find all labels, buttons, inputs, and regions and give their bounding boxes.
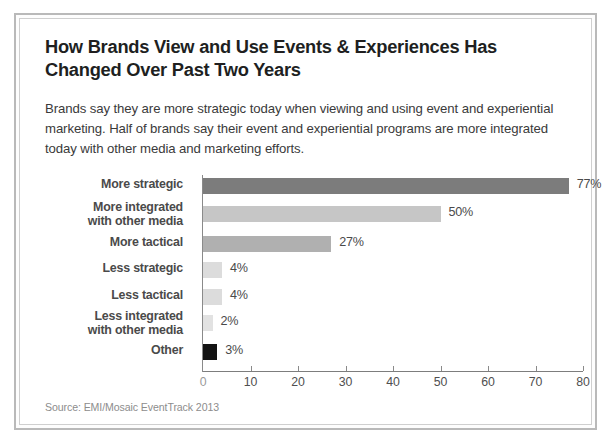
bar-value-label: 2% <box>221 314 239 328</box>
bar <box>203 206 441 222</box>
bar-row: Less integratedwith other media2% <box>20 312 591 334</box>
bar-category-label: More integratedwith other media <box>20 201 183 229</box>
x-axis-tick-label: 70 <box>529 375 542 389</box>
bar-category-label: Other <box>20 344 183 358</box>
x-axis-tick-label: 80 <box>576 375 589 389</box>
bar <box>203 315 213 331</box>
x-axis-tick <box>536 366 537 371</box>
bar-track: 4% <box>203 286 583 308</box>
x-axis-tick-label: 40 <box>386 375 399 389</box>
bar-value-label: 77% <box>577 177 602 191</box>
bar-category-label: Less tactical <box>20 289 183 303</box>
bar-track: 77% <box>203 175 583 197</box>
bar-category-label: More tactical <box>20 236 183 250</box>
x-axis-tick <box>441 366 442 371</box>
bar-row: More tactical27% <box>20 233 591 255</box>
bar-track: 4% <box>203 259 583 281</box>
bar <box>203 344 217 360</box>
bar-value-label: 27% <box>339 235 364 249</box>
bar-category-label: Less strategic <box>20 262 183 276</box>
bar-category-label: More strategic <box>20 178 183 192</box>
bar-track: 50% <box>203 203 583 225</box>
source-note: Source: EMI/Mosaic EventTrack 2013 <box>45 401 219 413</box>
bar-value-label: 4% <box>230 261 248 275</box>
x-axis-tick-label: 50 <box>434 375 447 389</box>
x-axis-tick <box>298 366 299 371</box>
x-axis-tick <box>251 366 252 371</box>
x-axis-tick-label: 30 <box>339 375 352 389</box>
bar-chart: More strategic77%More integratedwith oth… <box>20 175 591 390</box>
bar-row: More integratedwith other media50% <box>20 203 591 225</box>
x-axis-tick-label: 10 <box>244 375 257 389</box>
bar-track: 3% <box>203 341 583 363</box>
bar-track: 2% <box>203 312 583 334</box>
bar <box>203 178 569 194</box>
bar-row: Less strategic4% <box>20 259 591 281</box>
x-axis-tick <box>393 366 394 371</box>
bar-value-label: 50% <box>449 205 474 219</box>
x-axis: 01020304050607080 <box>203 371 583 401</box>
x-axis-tick-label: 60 <box>481 375 494 389</box>
bar <box>203 262 222 278</box>
intro-paragraph: Brands say they are more strategic today… <box>45 99 557 159</box>
bar-value-label: 3% <box>225 343 243 357</box>
x-axis-tick-label: 20 <box>291 375 304 389</box>
bar-track: 27% <box>203 233 583 255</box>
x-axis-tick <box>488 366 489 371</box>
page-title: How Brands View and Use Events & Experie… <box>45 35 565 82</box>
x-axis-tick-label: 0 <box>200 375 207 389</box>
x-axis-line <box>203 371 583 372</box>
bar-category-label: Less integratedwith other media <box>20 310 183 338</box>
bar-value-label: 4% <box>230 288 248 302</box>
bar-row: Less tactical4% <box>20 286 591 308</box>
x-axis-tick <box>346 366 347 371</box>
bar-row: More strategic77% <box>20 175 591 197</box>
card-content: How Brands View and Use Events & Experie… <box>20 19 591 424</box>
x-axis-tick <box>583 366 584 371</box>
bar <box>203 236 331 252</box>
bar <box>203 289 222 305</box>
bar-row: Other3% <box>20 341 591 363</box>
